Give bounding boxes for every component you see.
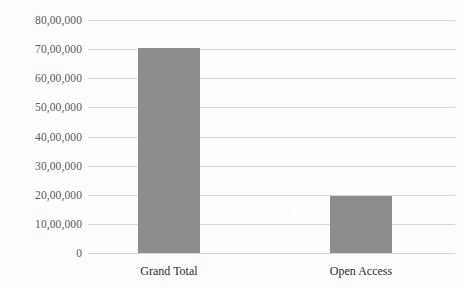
x-axis-category-labels: Grand Total Open Access (88, 263, 455, 285)
y-tick-label: 0 (0, 247, 82, 259)
bar-grand-total[interactable] (138, 48, 200, 253)
bar-chart: 80,00,000 70,00,000 60,00,000 50,00,000 … (0, 0, 465, 291)
y-tick-label: 70,00,000 (0, 43, 82, 55)
x-tick-label-grand-total: Grand Total (108, 263, 230, 279)
y-tick-label: 20,00,000 (0, 189, 82, 201)
y-axis-tick-labels: 80,00,000 70,00,000 60,00,000 50,00,000 … (0, 0, 82, 291)
y-tick-label: 50,00,000 (0, 101, 82, 113)
gridline-baseline (88, 253, 455, 254)
y-tick-label: 80,00,000 (0, 14, 82, 26)
y-tick-label: 30,00,000 (0, 160, 82, 172)
bar-series (88, 14, 455, 253)
plot-area (88, 14, 455, 259)
x-tick-label-open-access: Open Access (300, 263, 422, 279)
y-tick-label: 10,00,000 (0, 218, 82, 230)
y-tick-label: 60,00,000 (0, 72, 82, 84)
y-tick-label: 40,00,000 (0, 131, 82, 143)
bar-open-access[interactable] (330, 196, 392, 253)
